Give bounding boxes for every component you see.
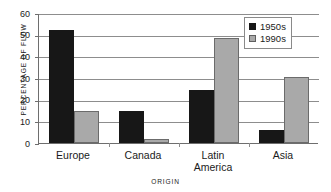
y-axis-tick-label: 30 [12,75,30,84]
category-label-line: Asia [248,150,318,162]
y-axis-tick-label: 60 [12,10,30,19]
legend-label: 1950s [260,22,286,32]
x-axis-category-label: Europe [38,150,108,162]
x-axis-tick [179,143,180,147]
legend-item: 1950s [249,21,286,33]
legend-label: 1990s [260,34,286,44]
bar [214,38,239,143]
y-axis-tick [35,36,39,37]
bar [284,77,309,143]
y-axis-tick [35,14,39,15]
bar-group [189,13,239,143]
y-axis-tick-labels: 0102030405060 [12,0,30,192]
bar [144,139,169,143]
bar [119,111,144,144]
y-axis-tick-label: 10 [12,118,30,127]
legend-item: 1990s [249,33,286,45]
y-axis-tick [35,57,39,58]
y-axis-tick-label: 40 [12,53,30,62]
bar-group [49,13,99,143]
category-label-line: America [178,162,248,174]
x-axis-category-label: LatinAmerica [178,150,248,173]
x-axis-title: ORIGIN [0,178,331,185]
bar [189,90,214,143]
bar [49,30,74,143]
y-axis-tick [35,101,39,102]
x-axis-tick [109,143,110,147]
chart-legend: 1950s1990s [244,17,292,49]
category-label-line: Europe [38,150,108,162]
y-axis-tick [35,144,39,145]
legend-swatch [249,35,256,42]
y-axis-tick [35,79,39,80]
bar [259,130,284,143]
y-axis-tick [35,122,39,123]
x-axis-tick [249,143,250,147]
category-label-line: Latin [178,150,248,162]
category-label-line: Canada [108,150,178,162]
y-axis-tick-label: 0 [12,140,30,149]
x-axis-category-label: Canada [108,150,178,162]
x-axis-category-label: Asia [248,150,318,162]
bar-chart: PERCENTAGE OF FLOW 0102030405060 ORIGIN … [0,0,331,192]
bar-group [119,13,169,143]
bar [74,111,99,144]
legend-swatch [249,23,256,30]
y-axis-tick-label: 20 [12,96,30,105]
y-axis-tick-label: 50 [12,31,30,40]
